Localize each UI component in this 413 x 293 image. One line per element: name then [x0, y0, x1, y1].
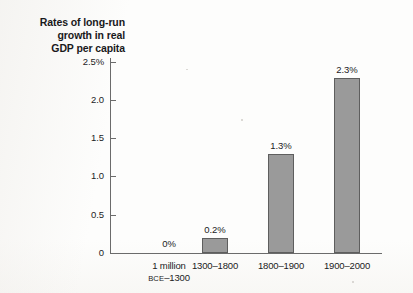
- chart-title: Rates of long-run growth in real GDP per…: [8, 16, 125, 56]
- bar-value-1800-1900: 1.3%: [248, 140, 314, 151]
- y-tick-label-1.0: 1.0: [26, 170, 104, 181]
- bar-1800-1900[interactable]: [268, 154, 294, 253]
- scan-speckle: [241, 119, 243, 121]
- scan-speckle: [186, 69, 188, 70]
- bar-1900-2000[interactable]: [334, 78, 360, 253]
- chart-title-line-2: growth in real: [8, 29, 125, 42]
- x-category-line-1: 1900–2000: [308, 260, 386, 272]
- y-tick-label-0.5: 0.5: [26, 209, 104, 220]
- x-category-label-1900-2000: 1900–2000: [308, 260, 386, 272]
- bar-1300-1800[interactable]: [202, 238, 228, 253]
- y-tick-mark-2.0: [110, 100, 116, 101]
- y-axis-line: [110, 58, 111, 254]
- y-tick-label-1.5: 1.5: [26, 132, 104, 143]
- y-tick-mark-0.5: [110, 215, 116, 216]
- x-category-line-2: BCE–1300: [130, 272, 208, 285]
- y-tick-mark-2.5: [110, 62, 116, 63]
- chart-figure: Rates of long-run growth in real GDP per…: [0, 0, 413, 293]
- scan-speckle: [352, 281, 354, 283]
- bar-value-1-million-bce-1300: 0%: [136, 238, 202, 249]
- bar-value-1300-1800: 0.2%: [182, 224, 248, 235]
- bar-value-1900-2000: 2.3%: [314, 64, 380, 75]
- y-tick-label-0: 0: [26, 247, 104, 258]
- y-tick-label-2.0: 2.0: [26, 94, 104, 105]
- y-tick-label-2.5: 2.5%: [26, 56, 104, 67]
- chart-title-line-1: Rates of long-run: [8, 16, 125, 29]
- x-axis-line: [110, 253, 382, 254]
- y-tick-mark-1.0: [110, 176, 116, 177]
- bce-range-rest: –1300: [164, 272, 190, 283]
- bce-small-caps: BCE: [148, 274, 164, 283]
- y-tick-mark-1.5: [110, 138, 116, 139]
- chart-title-line-3: GDP per capita: [8, 42, 125, 55]
